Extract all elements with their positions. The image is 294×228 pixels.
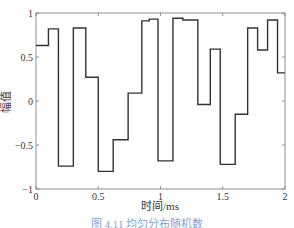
svg-text:2: 2	[283, 191, 288, 202]
svg-text:0: 0	[34, 191, 39, 202]
step-series-line	[36, 18, 285, 171]
svg-text:−0.5: −0.5	[15, 140, 33, 151]
svg-text:0: 0	[28, 96, 33, 107]
svg-text:0.5: 0.5	[92, 191, 105, 202]
step-chart: 00.511.52−1−0.500.51 幅值 时间/ms	[0, 0, 294, 228]
svg-text:0.5: 0.5	[21, 52, 34, 63]
svg-text:1: 1	[28, 8, 33, 19]
tick-labels: 00.511.52−1−0.500.51	[15, 8, 288, 203]
figure-caption: 图 4.11 均匀分布随机数	[0, 215, 294, 228]
svg-text:1.5: 1.5	[217, 191, 230, 202]
y-axis-label: 幅值	[0, 91, 12, 113]
x-axis-label: 时间/ms	[141, 200, 179, 212]
svg-text:−1: −1	[22, 184, 33, 195]
